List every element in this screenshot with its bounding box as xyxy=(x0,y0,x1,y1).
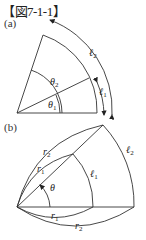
svg-text:θ2: θ2 xyxy=(50,76,59,89)
svg-text:θ: θ xyxy=(50,182,55,193)
panel-a xyxy=(17,20,112,115)
svg-text:ℓ2: ℓ2 xyxy=(126,144,134,157)
svg-text:r2: r2 xyxy=(43,146,51,159)
panel-a-labels: θ1 θ2 ℓ1 ℓ2 xyxy=(48,47,107,112)
theta-label: θ xyxy=(50,182,55,193)
theta-arc xyxy=(40,185,50,207)
svg-text:ℓ2: ℓ2 xyxy=(89,47,97,60)
svg-text:r2: r2 xyxy=(75,220,83,233)
radius-outer-b xyxy=(17,125,103,207)
theta2-arc xyxy=(31,70,62,113)
svg-text:θ1: θ1 xyxy=(48,99,57,112)
svg-text:ℓ1: ℓ1 xyxy=(99,86,107,99)
sector-diagram: θ1 θ2 ℓ1 ℓ2 θ r1 r2 r1 r2 ℓ1 ℓ2 xyxy=(0,0,146,240)
svg-text:r1: r1 xyxy=(51,210,59,223)
panel-b xyxy=(17,125,134,226)
l1-arc xyxy=(73,154,93,207)
svg-text:r1: r1 xyxy=(37,163,45,176)
l2-arc xyxy=(103,125,134,207)
panel-b-labels: θ r1 r2 r1 r2 ℓ1 ℓ2 xyxy=(37,144,134,233)
svg-text:ℓ1: ℓ1 xyxy=(90,168,98,181)
